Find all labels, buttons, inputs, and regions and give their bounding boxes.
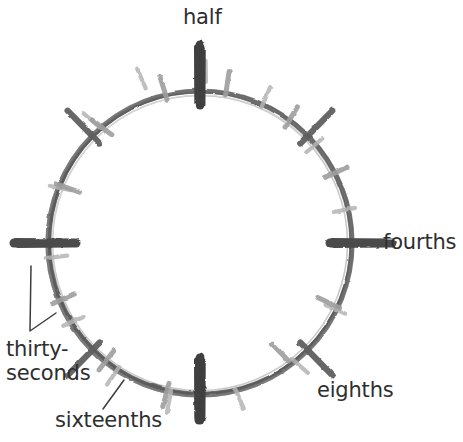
- figure-canvas: half fourths eighths sixteenths thirty-s…: [0, 0, 463, 442]
- tick-group-half: [197, 45, 204, 420]
- label-fourths: fourths: [383, 231, 456, 254]
- label-half: half: [183, 6, 222, 29]
- label-thirty-seconds-line1: thirty-: [6, 337, 68, 361]
- label-thirty-seconds: thirty-seconds: [6, 337, 90, 385]
- label-thirty-seconds-line2: seconds: [6, 361, 90, 385]
- tick-group-fourths: [14, 241, 392, 247]
- tick-group-eighths: [68, 111, 333, 376]
- label-sixteenths: sixteenths: [55, 409, 162, 432]
- label-eighths: eighths: [317, 379, 393, 402]
